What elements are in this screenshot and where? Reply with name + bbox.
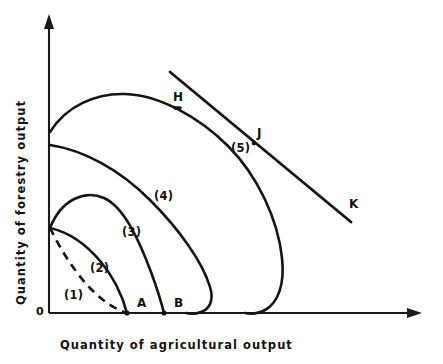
ppf-curve-1 bbox=[50, 228, 127, 313]
point-label-b: B bbox=[174, 296, 183, 310]
curve-label-3: (3) bbox=[122, 225, 141, 239]
point-label-k: K bbox=[349, 197, 359, 211]
y-axis-title: Quantity of forestry output bbox=[14, 100, 28, 305]
ppf-curve-2 bbox=[50, 228, 127, 313]
tangency-marker-j bbox=[252, 141, 257, 146]
point-label-h: H bbox=[173, 90, 183, 104]
curve-label-2: (2) bbox=[90, 261, 109, 275]
origin-label: 0 bbox=[36, 305, 44, 318]
point-label-j: J bbox=[257, 126, 262, 140]
price-line-hk bbox=[170, 72, 351, 222]
point-label-a: A bbox=[137, 296, 147, 310]
y-axis-arrow-icon bbox=[44, 14, 54, 29]
curve-label-4: (4) bbox=[154, 189, 173, 203]
diagram-canvas bbox=[0, 0, 443, 364]
curve-label-5: (5) bbox=[231, 141, 250, 155]
point-marker-b bbox=[161, 310, 166, 315]
x-axis bbox=[49, 308, 422, 318]
point-marker-a bbox=[124, 310, 129, 315]
curve-label-1: (1) bbox=[64, 288, 83, 302]
y-axis bbox=[44, 14, 54, 313]
x-axis-arrow-icon bbox=[407, 308, 422, 318]
x-axis-title: Quantity of agricultural output bbox=[60, 338, 293, 352]
ppf-diagram: 0 Quantity of forestry output Quantity o… bbox=[0, 0, 443, 364]
